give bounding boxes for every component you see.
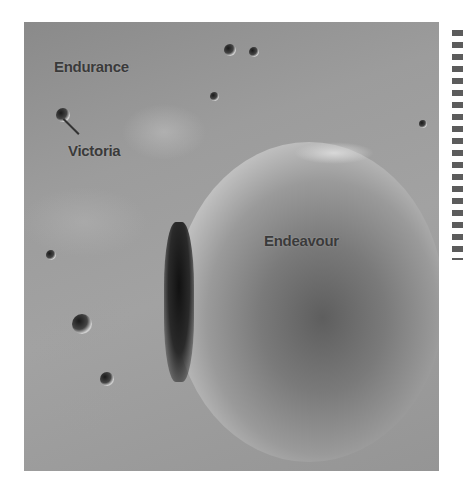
label-endeavour: Endeavour xyxy=(264,232,339,249)
mars-satellite-map: Endurance Victoria Endeavour xyxy=(24,22,439,471)
endeavour-crater xyxy=(174,142,439,462)
small-crater xyxy=(210,92,219,101)
clipped-caption-text xyxy=(452,30,463,260)
victoria-pointer-line xyxy=(63,118,80,135)
small-crater xyxy=(100,372,114,386)
small-crater xyxy=(249,47,259,57)
small-crater xyxy=(224,44,236,56)
small-crater xyxy=(46,250,56,260)
small-crater xyxy=(72,314,92,334)
endeavour-rim-shadow xyxy=(164,222,194,382)
label-victoria: Victoria xyxy=(68,142,120,159)
label-endurance: Endurance xyxy=(54,58,129,75)
endeavour-rim-highlight xyxy=(294,142,374,164)
small-crater xyxy=(419,120,427,128)
